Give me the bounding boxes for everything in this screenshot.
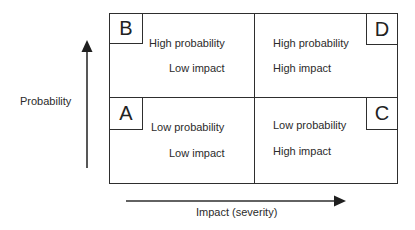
- quadrant-c-letter: C: [366, 97, 398, 130]
- quadrant-a-probability: Low probability: [151, 121, 224, 134]
- quadrant-c-probability: Low probability: [273, 119, 346, 132]
- quadrant-b-probability: High probability: [149, 37, 225, 50]
- quadrant-d-impact: High impact: [273, 62, 331, 75]
- probability-arrow: [82, 40, 93, 168]
- quadrant-a-letter: A: [109, 97, 143, 130]
- impact-axis-label: Impact (severity): [196, 206, 277, 219]
- quadrant-b-letter: B: [109, 13, 143, 44]
- probability-arrowhead: [82, 40, 93, 52]
- matrix-vertical-divider: [254, 13, 255, 184]
- probability-axis-label: Probability: [20, 95, 71, 108]
- quadrant-b-impact: Low impact: [169, 62, 225, 75]
- quadrant-d-letter: D: [366, 13, 398, 45]
- impact-arrowhead: [334, 196, 346, 207]
- quadrant-c-impact: High impact: [273, 145, 331, 158]
- impact-arrow: [126, 196, 346, 207]
- quadrant-a-impact: Low impact: [169, 147, 225, 160]
- quadrant-d-probability: High probability: [273, 37, 349, 50]
